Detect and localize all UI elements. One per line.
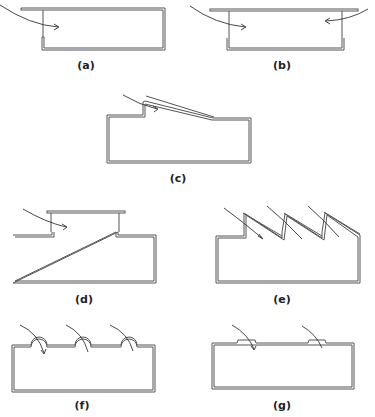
panel-f-label: (f)	[75, 399, 90, 412]
panel-b-drawing	[190, 6, 368, 50]
panel-a-label: (a)	[77, 59, 94, 72]
panel-b-label: (b)	[273, 59, 291, 72]
panel-a-drawing	[0, 5, 165, 50]
roof-ventilation-diagram	[0, 0, 375, 417]
panel-d-drawing	[13, 209, 156, 283]
panel-g-label: (g)	[273, 399, 291, 412]
panel-f-drawing	[12, 325, 155, 392]
panel-e-label: (e)	[273, 293, 291, 306]
panel-c-drawing	[107, 95, 251, 163]
panel-c-label: (c)	[170, 172, 187, 185]
panel-d-label: (d)	[75, 293, 93, 306]
panel-g-drawing	[212, 325, 354, 389]
panel-e-drawing	[216, 206, 360, 283]
